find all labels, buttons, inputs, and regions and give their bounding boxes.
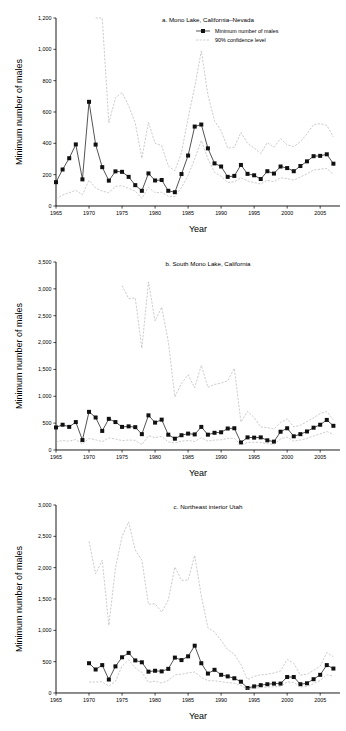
data-point-marker [179, 433, 183, 437]
y-axis-title: Minimum number of males [14, 59, 24, 165]
data-point-marker [219, 673, 223, 677]
x-tick-label: 1975 [116, 698, 128, 704]
chart-legend: Minimum number of males90% confidence le… [196, 28, 279, 43]
data-point-marker [113, 169, 117, 173]
x-tick-label: 1995 [248, 454, 260, 460]
x-tick-label: 1965 [50, 698, 62, 704]
x-tick-label: 1990 [215, 698, 227, 704]
x-tick-label: 1965 [50, 454, 62, 460]
data-point-marker [146, 171, 150, 175]
data-point-marker [61, 167, 65, 171]
data-point-marker [107, 678, 111, 682]
y-tick-label: 600 [43, 109, 52, 115]
x-tick-label: 2005 [314, 454, 326, 460]
y-tick-label: 1,500 [38, 596, 51, 602]
data-point-marker [226, 175, 230, 179]
data-point-marker [153, 178, 157, 182]
series-line [89, 646, 333, 688]
data-point-marker [279, 165, 283, 169]
data-point-marker [160, 417, 164, 421]
data-point-marker [140, 189, 144, 193]
data-point-marker [80, 438, 84, 442]
data-point-marker [226, 426, 230, 430]
y-tick-label: 400 [43, 140, 52, 146]
x-tick-label: 2005 [314, 210, 326, 216]
data-point-marker [120, 170, 124, 174]
data-point-marker [219, 165, 223, 169]
data-point-marker [272, 172, 276, 176]
data-point-marker [94, 415, 98, 419]
x-tick-label: 1975 [116, 454, 128, 460]
series-line [56, 102, 333, 192]
figure-container: 02004006008001,0001,20019651970197519801… [0, 0, 346, 731]
y-tick-label: 1,000 [38, 627, 51, 633]
data-point-marker [179, 658, 183, 662]
data-point-marker [67, 156, 71, 160]
data-point-marker [312, 154, 316, 158]
data-point-marker [173, 436, 177, 440]
data-point-marker [94, 143, 98, 147]
y-tick-label: 2,000 [38, 339, 51, 345]
data-point-marker [179, 172, 183, 176]
data-point-marker [133, 425, 137, 429]
y-tick-label: 800 [43, 78, 52, 84]
data-point-marker [298, 432, 302, 436]
data-point-marker [298, 164, 302, 168]
data-point-marker [312, 677, 316, 681]
data-point-marker [305, 159, 309, 163]
data-point-marker [127, 424, 131, 428]
data-point-marker [113, 420, 117, 424]
data-point-marker [232, 174, 236, 178]
data-point-marker [239, 163, 243, 167]
data-point-marker [213, 668, 217, 672]
data-point-marker [259, 683, 263, 687]
x-tick-label: 1970 [83, 210, 95, 216]
data-point-marker [279, 429, 283, 433]
data-point-marker [100, 165, 104, 169]
data-point-marker [285, 166, 289, 170]
data-point-marker [173, 190, 177, 194]
y-tick-label: 0 [49, 203, 52, 209]
data-point-marker [318, 154, 322, 158]
data-point-marker [160, 670, 164, 674]
data-point-marker [318, 673, 322, 677]
data-point-marker [193, 125, 197, 129]
data-point-marker [265, 682, 269, 686]
chart-svg-1: 05001,0001,5002,0002,5003,0003,500196519… [0, 244, 346, 488]
legend-series-marker [201, 29, 205, 33]
x-tick-label: 1995 [248, 698, 260, 704]
data-point-marker [54, 425, 58, 429]
panel-title: c. Northeast interior Utah [174, 503, 243, 510]
chart-panel-c: 05001,0001,5002,0002,5003,00019651970197… [0, 487, 346, 731]
data-point-marker [193, 432, 197, 436]
x-tick-label: 1970 [83, 698, 95, 704]
x-tick-label: 1980 [149, 698, 161, 704]
x-tick-label: 1990 [215, 210, 227, 216]
data-point-marker [94, 668, 98, 672]
data-point-marker [312, 425, 316, 429]
data-point-marker [166, 432, 170, 436]
confidence-interval-line [89, 660, 333, 689]
data-point-marker [292, 434, 296, 438]
data-point-marker [113, 665, 117, 669]
x-tick-label: 2005 [314, 698, 326, 704]
data-point-marker [166, 189, 170, 193]
data-point-marker [166, 667, 170, 671]
y-tick-label: 1,000 [38, 393, 51, 399]
data-point-marker [100, 429, 104, 433]
data-point-marker [87, 409, 91, 413]
data-point-marker [325, 152, 329, 156]
y-tick-label: 500 [43, 420, 52, 426]
chart-panel-b: 05001,0001,5002,0002,5003,0003,500196519… [0, 244, 346, 488]
data-point-marker [226, 675, 230, 679]
data-point-marker [246, 435, 250, 439]
data-point-marker [120, 655, 124, 659]
x-tick-label: 1980 [149, 454, 161, 460]
data-point-marker [80, 177, 84, 181]
panel-title: a. Mono Lake, California–Nevada [162, 16, 254, 23]
data-point-marker [146, 670, 150, 674]
x-tick-label: 2000 [281, 210, 293, 216]
data-point-marker [133, 659, 137, 663]
data-point-marker [186, 431, 190, 435]
data-point-marker [186, 655, 190, 659]
